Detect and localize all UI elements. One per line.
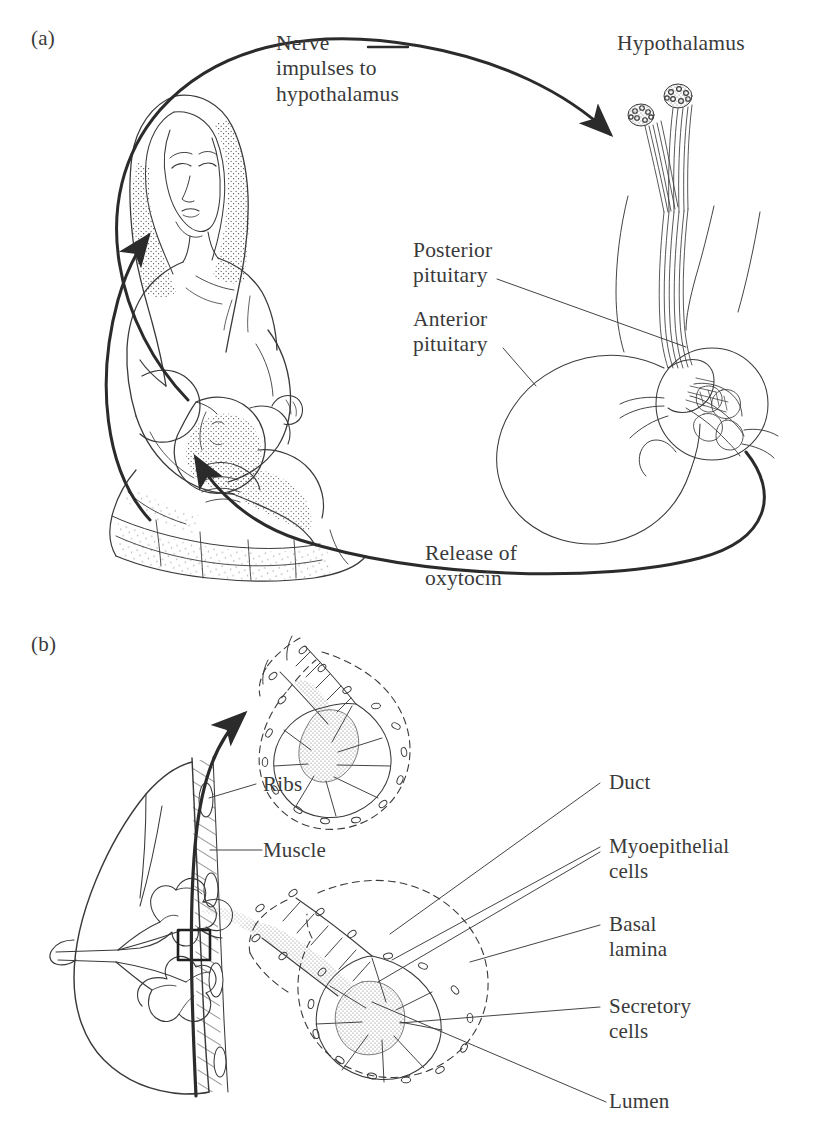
leader-duct: [390, 783, 600, 934]
alveolus-distended: [200, 880, 488, 1083]
hypothalamus-pituitary-drawing: [497, 84, 778, 544]
leader-myoepithelial-1: [392, 847, 600, 960]
hypothalamic-nucleus-left: [628, 104, 654, 126]
panel-b-leader-lines: [209, 783, 606, 1102]
panel-a-marker: (a): [31, 26, 55, 51]
label-duct: Duct: [609, 770, 651, 795]
label-release-of-oxytocin: Release of oxytocin: [425, 541, 517, 592]
label-basal-lamina: Basal lamina: [609, 912, 667, 962]
label-lumen: Lumen: [609, 1089, 669, 1114]
label-hypothalamus: Hypothalamus: [617, 31, 745, 56]
figure-milk-ejection-reflex: (a) (b) Nerve impulses to hypothalamus H…: [0, 0, 814, 1147]
figure-artwork: [0, 0, 814, 1147]
leader-myoepithelial-2: [378, 852, 600, 982]
breast-cross-section: [50, 757, 233, 1094]
panel-b-marker: (b): [31, 632, 56, 657]
leader-ribs: [209, 784, 256, 798]
leader-anterior-pituitary: [503, 348, 536, 386]
label-muscle: Muscle: [263, 838, 326, 863]
leader-lumen: [372, 1002, 606, 1102]
leader-posterior-pituitary: [497, 279, 686, 347]
label-secretory-cells: Secretory cells: [609, 994, 691, 1044]
label-ribs: Ribs: [263, 772, 302, 797]
magnification-arrow: [191, 714, 244, 1096]
label-anterior-pituitary: Anterior pituitary: [413, 307, 488, 358]
leader-basal-lamina: [470, 925, 600, 962]
magnified-region-box: [178, 930, 210, 960]
alveolus-contracted: [259, 636, 410, 829]
label-nerve-impulses: Nerve impulses to hypothalamus: [276, 31, 399, 107]
label-posterior-pituitary: Posterior pituitary: [413, 238, 492, 289]
leader-secretory-cells: [400, 1007, 600, 1023]
mother-figure: [110, 95, 366, 581]
label-myoepithelial-cells: Myoepithelial cells: [609, 834, 729, 884]
caption-strip: [0, 1133, 814, 1147]
hypothalamic-nucleus-right: [664, 84, 692, 108]
